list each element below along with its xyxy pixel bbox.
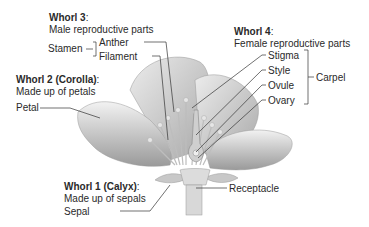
whorl4-heading-colon: : bbox=[271, 26, 274, 37]
whorl3-subtitle: Male reproductive parts bbox=[49, 24, 154, 35]
filament-label: Filament bbox=[99, 51, 137, 62]
whorl3-heading-bold: Whorl 3 bbox=[49, 12, 86, 23]
style-label: Style bbox=[268, 65, 290, 76]
whorl2-heading-colon: : bbox=[97, 74, 100, 85]
whorl4-subtitle: Female reproductive parts bbox=[234, 38, 350, 49]
sepal-label: Sepal bbox=[64, 206, 90, 217]
receptacle-label: Receptacle bbox=[229, 183, 279, 194]
stamen-label: Stamen bbox=[48, 43, 82, 54]
petal-label: Petal bbox=[16, 102, 39, 113]
whorl1-heading: Whorl 1 (Calyx): bbox=[64, 181, 140, 192]
ovule-label: Ovule bbox=[268, 80, 294, 91]
whorl3-heading-colon: : bbox=[86, 12, 89, 23]
whorl2-heading-bold: Whorl 2 (Corolla) bbox=[16, 74, 97, 85]
anther-label: Anther bbox=[99, 37, 128, 48]
whorl2-subtitle: Made up of petals bbox=[16, 86, 96, 97]
sepal-right bbox=[205, 174, 238, 183]
ovary-label: Ovary bbox=[268, 95, 295, 106]
whorl1-heading-bold: Whorl 1 (Calyx) bbox=[64, 181, 137, 192]
whorl4-heading-bold: Whorl 4 bbox=[234, 26, 271, 37]
whorl4-heading: Whorl 4: bbox=[234, 26, 273, 37]
carpel-label: Carpel bbox=[316, 72, 345, 83]
stem bbox=[186, 185, 202, 215]
stigma-label: Stigma bbox=[268, 50, 299, 61]
whorl1-heading-colon: : bbox=[137, 181, 140, 192]
ovule bbox=[193, 150, 199, 156]
whorl1-subtitle: Made up of sepals bbox=[64, 193, 146, 204]
whorl3-heading: Whorl 3: bbox=[49, 12, 88, 23]
whorl2-heading: Whorl 2 (Corolla): bbox=[16, 74, 99, 85]
receptacle-shape bbox=[180, 169, 210, 186]
